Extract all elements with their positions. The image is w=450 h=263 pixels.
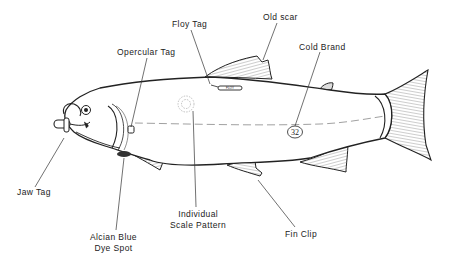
label-jaw-tag: Jaw Tag	[17, 187, 51, 198]
svg-text:FLOY: FLOY	[226, 86, 234, 90]
label-scale-pattern-line2: Scale Pattern	[170, 220, 226, 231]
cold-brand-mark: 32	[288, 126, 303, 138]
leader-old-scar	[263, 23, 277, 60]
label-alcian-blue-dye-spot: Alcian Blue Dye Spot	[90, 232, 137, 254]
label-opercular-tag: Opercular Tag	[117, 47, 175, 58]
leader-fin-clip	[258, 180, 295, 227]
leader-jaw-tag	[35, 138, 64, 187]
svg-text:32: 32	[291, 128, 299, 137]
opercular-tag-mark	[128, 126, 134, 133]
dye-spot-mark	[117, 151, 131, 157]
leader-floy-tag	[191, 30, 210, 84]
label-floy-tag: Floy Tag	[172, 19, 207, 30]
label-scale-pattern-line1: Individual	[170, 209, 226, 220]
label-fin-clip: Fin Clip	[285, 229, 317, 240]
label-alcian-blue-line2: Dye Spot	[90, 243, 137, 254]
jaw-tag-mark	[54, 118, 70, 132]
label-cold-brand: Cold Brand	[299, 42, 346, 53]
label-old-scar: Old scar	[263, 12, 298, 23]
dorsal-fin	[205, 56, 272, 79]
leader-dye-spot	[116, 158, 124, 230]
label-individual-scale-pattern: Individual Scale Pattern	[170, 209, 226, 231]
label-alcian-blue-line1: Alcian Blue	[90, 232, 137, 243]
